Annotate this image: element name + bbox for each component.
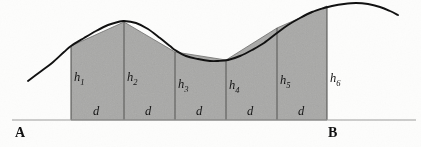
strip-width-label-4: d bbox=[247, 105, 253, 118]
ordinate-label-h3: h3 bbox=[178, 78, 189, 93]
ordinate-label-h1-sub: 1 bbox=[80, 77, 84, 87]
ordinate-label-h6-sub: 6 bbox=[336, 78, 340, 88]
ordinate-label-h1: h1 bbox=[74, 71, 85, 86]
trapezoid-strips-group bbox=[71, 6, 327, 120]
ordinate-label-h4-sub: 4 bbox=[235, 85, 239, 95]
endpoint-label-b: B bbox=[328, 126, 337, 140]
endpoint-label-a: A bbox=[15, 126, 25, 140]
ordinate-label-h2: h2 bbox=[127, 71, 138, 86]
ordinate-label-h2-sub: 2 bbox=[133, 77, 137, 87]
strip-width-label-5: d bbox=[298, 105, 304, 118]
ordinate-label-h5-sub: 5 bbox=[286, 80, 290, 90]
strip-width-label-3: d bbox=[196, 105, 202, 118]
ordinate-label-h6: h6 bbox=[330, 72, 341, 87]
ordinate-label-h4: h4 bbox=[229, 79, 240, 94]
strip-width-label-2: d bbox=[145, 105, 151, 118]
ordinate-label-h5: h5 bbox=[280, 74, 291, 89]
ordinate-label-h3-sub: 3 bbox=[184, 84, 188, 94]
figure-canvas: h1 h2 h3 h4 h5 h6 d d d d d A B bbox=[0, 0, 421, 147]
strip-width-label-1: d bbox=[93, 105, 99, 118]
trapezoidal-rule-figure bbox=[0, 0, 421, 147]
